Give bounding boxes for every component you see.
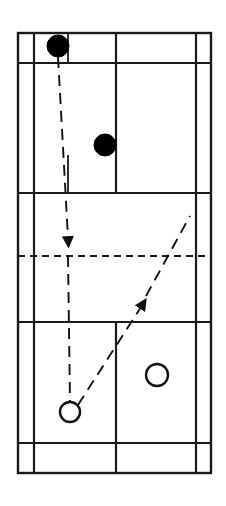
player-dark-back[interactable] xyxy=(47,35,69,57)
player-dark-front[interactable] xyxy=(94,134,116,156)
player-light-left[interactable] xyxy=(60,402,80,422)
player-light-right[interactable] xyxy=(146,364,168,386)
court-svg xyxy=(0,0,226,506)
badminton-court-diagram xyxy=(0,0,226,506)
